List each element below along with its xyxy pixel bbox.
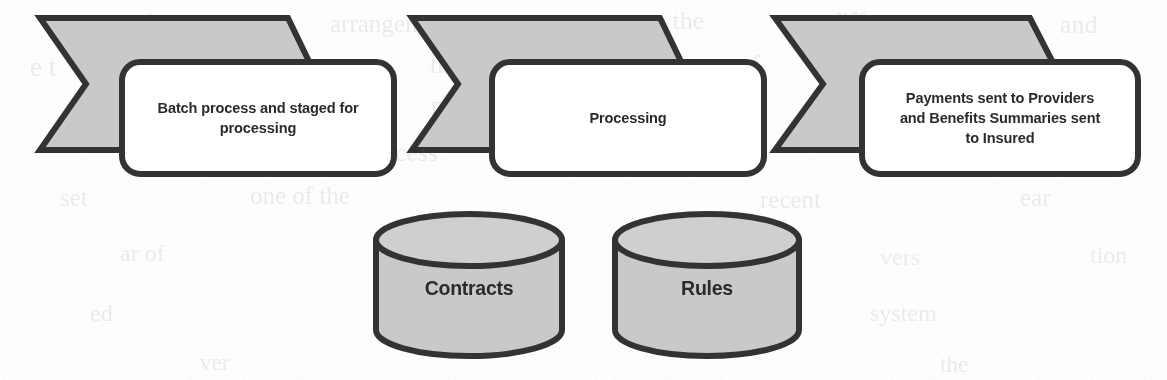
datastore-contracts-top: [376, 214, 562, 266]
diagram-canvas: thearrangementon thedifferentande tno th…: [0, 0, 1167, 380]
step-1-callout-box[interactable]: [122, 62, 394, 174]
datastore-rules-group[interactable]: [615, 214, 799, 356]
step-2-group[interactable]: [412, 18, 764, 174]
process-flow-figure: [0, 0, 1167, 380]
datastore-contracts-group[interactable]: [376, 214, 562, 356]
step-3-callout-box[interactable]: [862, 62, 1138, 174]
step-3-group[interactable]: [775, 18, 1138, 174]
datastore-rules-top: [615, 214, 799, 266]
step-2-callout-box[interactable]: [492, 62, 764, 174]
step-1-group[interactable]: [40, 18, 394, 174]
